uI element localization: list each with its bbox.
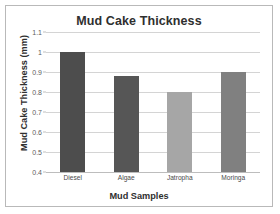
- y-axis-tick-label: 0.9: [32, 69, 42, 76]
- bar-slot: [153, 32, 207, 172]
- bar-jatropha[interactable]: [167, 92, 192, 172]
- x-axis-label-diesel: Diesel: [46, 174, 100, 181]
- y-axis-tick-label: 0.6: [32, 129, 42, 136]
- chart-container: Mud Cake Thickness Mud Cake Thickness (m…: [5, 5, 273, 207]
- y-axis-tick-label: 0.5: [32, 149, 42, 156]
- x-axis-label-algae: Algae: [100, 174, 154, 181]
- x-axis-label-moringa: Moringa: [207, 174, 261, 181]
- y-axis-tick-label: 1: [38, 49, 42, 56]
- bar-moringa[interactable]: [221, 72, 246, 172]
- bar-algae[interactable]: [114, 76, 139, 172]
- bar-slot: [46, 32, 100, 172]
- y-axis-tick-label: 1.1: [32, 29, 42, 36]
- bar-diesel[interactable]: [60, 52, 85, 172]
- x-axis-label-jatropha: Jatropha: [153, 174, 207, 181]
- y-axis-tick-label: 0.4: [32, 169, 42, 176]
- x-axis-tick-labels: DieselAlgaeJatrophaMoringa: [46, 174, 260, 181]
- plot-area: 1.110.90.80.70.60.50.4: [46, 32, 260, 172]
- y-axis-tick-label: 0.7: [32, 109, 42, 116]
- y-axis-title: Mud Cake Thickness (mm): [19, 23, 29, 163]
- x-axis-title: Mud Samples: [6, 191, 272, 201]
- bar-series: [46, 32, 260, 172]
- chart-title: Mud Cake Thickness: [6, 14, 272, 28]
- bar-slot: [207, 32, 261, 172]
- bar-slot: [100, 32, 154, 172]
- x-axis-line: [46, 172, 260, 173]
- y-axis-tick-label: 0.8: [32, 89, 42, 96]
